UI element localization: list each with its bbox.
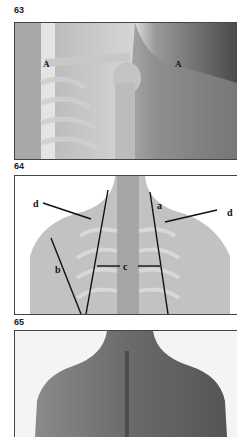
label-d-left: d [33,198,39,209]
figure-64-back-skeleton: d a d b c [14,175,237,315]
label-A-right: A [175,59,182,69]
label-d-right: d [227,207,233,218]
label-c: c [123,261,128,272]
figure-65-back-photo [14,330,237,437]
figure-number-63: 63 [14,5,24,15]
label-a: a [157,200,162,211]
label-b: b [55,264,61,275]
figure-number-65: 65 [14,317,24,327]
figure-number-64: 64 [14,161,24,171]
figure-63-shoulder-skeleton: A A [14,22,237,160]
label-A-left: A [43,59,50,69]
